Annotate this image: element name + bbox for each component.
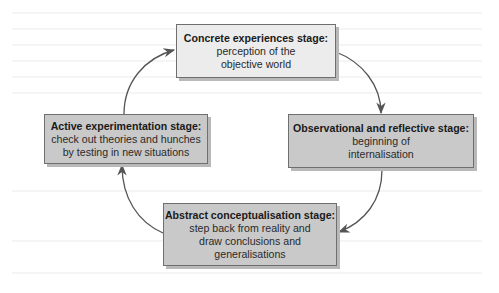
arrow-abstract-to-active: [122, 165, 163, 233]
arrow-active-to-concrete: [124, 50, 174, 114]
stage-concrete-experiences: Concrete experiences stage: perception o…: [176, 24, 336, 78]
stage-description: perception of the objective world: [217, 45, 296, 71]
stage-abstract-conceptualisation: Abstract conceptualisation stage: step b…: [163, 203, 337, 266]
arrow-concrete-to-observational: [336, 52, 381, 113]
stage-title: Observational and reflective stage:: [293, 122, 469, 135]
stage-description: beginning of internalisation: [348, 135, 413, 161]
stage-description: step back from reality and draw conclusi…: [189, 222, 310, 261]
stage-observational-reflective: Observational and reflective stage: begi…: [288, 114, 474, 168]
arrow-observational-to-abstract: [339, 170, 382, 232]
stage-title: Concrete experiences stage:: [184, 32, 328, 45]
stage-active-experimentation: Active experimentation stage: check out …: [44, 114, 208, 164]
stage-title: Active experimentation stage:: [51, 120, 202, 133]
stage-description: check out theories and hunches by testin…: [51, 133, 201, 159]
stage-title: Abstract conceptualisation stage:: [165, 209, 335, 222]
